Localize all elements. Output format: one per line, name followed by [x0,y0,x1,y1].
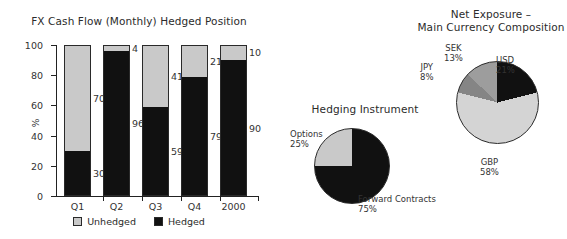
hedging-pie-graphic[interactable] [314,128,390,204]
pie-label-usd-value: 21% [496,65,515,75]
bar-value-unhedged: 10 [249,46,261,57]
bar-plot-area: 100 80 60 40 20 0 70 30 [56,45,259,197]
bar-segment-unhedged[interactable]: 70 [64,45,91,151]
y-tick-60: 60 [51,105,56,106]
pie-label-gbp-name: GBP [480,157,499,167]
legend-swatch-hedged-icon [154,217,163,226]
table-row[interactable]: 70 30 Q1 [64,45,91,196]
x-category-label: Q1 [64,201,91,212]
y-tick-label-40: 40 [31,130,43,141]
bar-segment-hedged[interactable]: 90 [220,60,247,196]
x-category-label: Q3 [142,201,169,212]
legend-label-unhedged: Unhedged [87,216,136,227]
pie-label-gbp: GBP 58% [480,157,499,177]
bar-segment-unhedged[interactable]: 21 [181,45,208,77]
pie-label-jpy-name: JPY [420,62,434,72]
bar-segment-hedged[interactable]: 59 [142,107,169,196]
pie-label-options-name: Options [290,129,323,139]
bar-segment-hedged[interactable]: 30 [64,151,91,196]
y-tick-100: 100 [51,45,56,46]
pie-label-usd: USD 21% [496,55,515,75]
y-tick-20: 20 [51,166,56,167]
y-tick-label-100: 100 [25,40,43,51]
exposure-pie-title: Net Exposure – Main Currency Composition [415,8,567,34]
x-tick-5 [258,197,259,201]
pie-label-jpy: JPY 8% [420,62,434,82]
fx-cash-flow-bar-chart: FX Cash Flow (Monthly) Hedged Position %… [0,0,290,239]
hedging-instrument-pie-chart: Hedging Instrument Options 25% Forward C… [290,0,440,239]
y-tick-label-80: 80 [31,70,43,81]
table-row[interactable]: 10 90 2000 [220,45,247,196]
legend-swatch-unhedged-icon [73,217,82,226]
pie-label-sek-value: 13% [444,53,463,63]
x-category-label: Q4 [181,201,208,212]
pie-label-gbp-value: 58% [480,167,499,177]
table-row[interactable]: 4 96 Q2 [103,45,130,196]
legend-label-hedged: Hedged [168,216,205,227]
y-tick-label-60: 60 [31,100,43,111]
y-tick-label-0: 0 [37,191,43,202]
y-tick-0: 0 [51,196,56,197]
table-row[interactable]: 41 59 Q3 [142,45,169,196]
pie-label-sek: SEK 13% [444,43,463,63]
x-category-label: Q2 [103,201,130,212]
pie-label-usd-name: USD [496,55,515,65]
y-axis-label: % [31,119,41,128]
bar-value-unhedged: 4 [132,43,138,54]
bar-segment-unhedged[interactable]: 10 [220,45,247,60]
bar-segment-hedged[interactable]: 96 [103,51,130,196]
y-tick-40: 40 [51,136,56,137]
x-category-label: 2000 [220,201,247,212]
x-axis-line [56,196,259,197]
bar-chart-title: FX Cash Flow (Monthly) Hedged Position [0,15,278,28]
exposure-pie-title-line1: Net Exposure – [415,8,567,21]
pie-label-jpy-value: 8% [420,72,434,82]
bar-value-hedged: 90 [249,122,261,133]
bar-chart-legend: Unhedged Hedged [0,216,278,227]
pie-label-options: Options 25% [290,129,323,149]
legend-item-unhedged[interactable]: Unhedged [73,216,136,227]
pie-label-sek-name: SEK [444,43,463,53]
table-row[interactable]: 21 79 Q4 [181,45,208,196]
legend-item-hedged[interactable]: Hedged [154,216,205,227]
bar-segment-hedged[interactable]: 79 [181,77,208,196]
net-exposure-pie-chart: Net Exposure – Main Currency Composition… [420,0,567,239]
pie-label-options-value: 25% [290,139,323,149]
hedging-pie-title: Hedging Instrument [290,103,440,116]
y-tick-80: 80 [51,75,56,76]
y-axis-line [56,45,57,197]
exposure-pie-title-line2: Main Currency Composition [415,21,567,34]
y-tick-label-20: 20 [31,160,43,171]
bar-segment-unhedged[interactable]: 41 [142,45,169,107]
